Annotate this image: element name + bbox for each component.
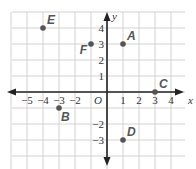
point-marker-icon [120,137,126,143]
y-tick-label: −3 [92,134,104,146]
point-marker-icon [40,25,46,31]
point-label: D [127,125,136,139]
point-f: F [80,41,94,57]
x-tick-label: −3 [53,94,65,106]
x-tick-label: 1 [120,94,126,106]
x-tick-label: 4 [168,94,174,106]
tick-labels: −5−4−3−212344321−2−3 [21,22,174,146]
y-tick-label: 3 [99,38,105,50]
x-tick-label: −2 [69,94,81,106]
x-tick-label: 2 [136,94,142,106]
y-axis-down-arrow-icon [104,157,111,166]
point-label: B [61,110,70,124]
coordinate-plane: xyO −5−4−3−212344321−2−3 ABCDEF [0,0,196,169]
origin-label: O [94,94,102,106]
point-label: F [80,43,88,57]
y-axis-label: y [111,10,117,22]
x-axis-right-arrow-icon [175,89,184,96]
point-label: A [126,29,136,43]
point-label: E [47,13,56,27]
x-tick-label: −5 [21,94,33,106]
y-tick-label: 1 [99,70,105,82]
y-tick-label: −2 [92,118,104,130]
y-axis-up-arrow-icon [104,12,111,21]
x-tick-label: −4 [37,94,49,106]
point-label: C [159,77,168,91]
x-tick-label: 3 [152,94,158,106]
y-tick-label: 2 [99,54,105,66]
x-axis-left-arrow-icon [7,89,16,96]
y-tick-label: 4 [99,22,105,34]
x-axis-label: x [187,94,193,106]
point-marker-icon [120,41,126,47]
point-marker-icon [152,89,158,95]
point-marker-icon [88,41,94,47]
